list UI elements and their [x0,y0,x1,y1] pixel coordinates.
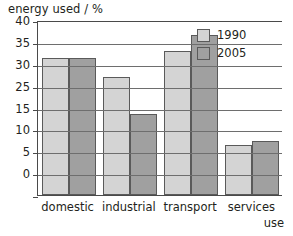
bar-chart: energy used / % 40353025151050 domestici… [0,0,293,236]
y-tick-mark [33,110,38,111]
y-tick-mark [33,131,38,132]
legend-swatch-icon [197,47,210,60]
y-tick-label: 35 [15,36,30,50]
y-tick-mark [33,153,38,154]
y-tick-mark [33,66,38,67]
bar-industrial-2005 [130,114,157,195]
y-tick-label: 40 [15,14,30,28]
gridline [38,88,282,89]
y-tick-label: 5 [23,145,30,159]
y-tick-label: 15 [15,102,30,116]
gridline [38,153,282,154]
gridline [38,110,282,111]
y-tick-mark [33,88,38,89]
y-tick-label: 30 [15,58,30,72]
y-tick-mark [33,22,38,23]
gridline [38,66,282,67]
legend-item-1990: 1990 [197,26,246,44]
y-tick-mark [33,175,38,176]
x-category-label: domestic [37,200,98,214]
x-axis-title: use [264,216,284,230]
bar-group [103,22,157,195]
x-category-label: services [221,200,282,214]
legend-label: 1990 [217,28,246,42]
x-category-label: transport [160,200,221,214]
bar-services-2005 [252,141,279,195]
legend-label: 2005 [217,46,246,60]
x-category-label: industrial [98,200,159,214]
legend: 19902005 [197,26,246,62]
bar-industrial-1990 [103,77,130,195]
y-tick-label: 10 [15,123,30,137]
gridline [38,131,282,132]
bar-transport-1990 [164,51,191,195]
y-tick-label: 25 [15,80,30,94]
bar-services-1990 [225,145,252,195]
legend-swatch-icon [197,29,210,42]
gridline [38,175,282,176]
legend-item-2005: 2005 [197,44,246,62]
y-tick-label: 0 [23,167,30,181]
y-tick-mark [33,44,38,45]
y-tick-mark [33,197,38,198]
bar-group [42,22,96,195]
